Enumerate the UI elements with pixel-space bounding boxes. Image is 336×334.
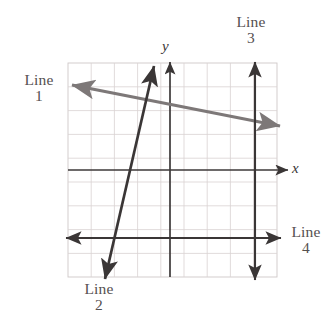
line-2-label: Line 2: [70, 281, 128, 313]
line-3-label: Line 3: [222, 14, 280, 46]
y-axis-label: y: [162, 38, 169, 55]
line-4-label: Line 4: [277, 224, 335, 256]
line-1-label: Line 1: [10, 72, 68, 104]
graph-figure: Line 1 Line 2 Line 3 Line 4 x y: [0, 0, 336, 334]
x-axis-label: x: [292, 160, 299, 177]
